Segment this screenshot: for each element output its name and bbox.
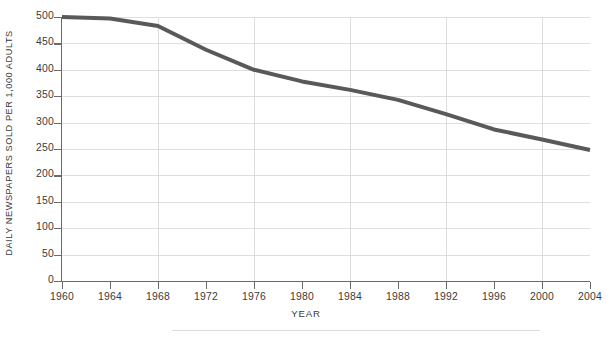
chart-page: DAILY NEWSPAPERS SOLD PER 1,000 ADULTS 0…	[0, 0, 612, 337]
x-axis-tick	[158, 282, 159, 289]
x-axis-tick	[62, 282, 63, 289]
x-axis-tick-label: 1976	[231, 291, 277, 302]
x-axis-tick-label: 1968	[135, 291, 181, 302]
x-axis-tick	[206, 282, 207, 289]
x-axis-title: YEAR	[0, 308, 612, 319]
x-axis-tick-label: 1984	[327, 291, 373, 302]
x-axis-tick-label: 1992	[423, 291, 469, 302]
footer-divider	[172, 330, 540, 331]
x-axis-tick-label: 1972	[183, 291, 229, 302]
x-axis-tick-label: 1964	[87, 291, 133, 302]
y-axis-tick	[54, 123, 62, 124]
x-axis-tick-label: 2000	[519, 291, 565, 302]
x-axis-tick-label: 2004	[567, 291, 612, 302]
y-axis-tick-label: 450	[10, 36, 54, 47]
clipped-title-text	[30, 0, 330, 3]
y-axis-tick	[54, 228, 62, 229]
y-axis-tick	[54, 17, 62, 18]
y-axis-tick-label: 50	[10, 248, 54, 259]
x-axis-tick	[494, 282, 495, 289]
x-axis-tick-label: 1988	[375, 291, 421, 302]
y-axis-tick	[54, 96, 62, 97]
plot-area	[62, 17, 590, 281]
y-axis-tick-label: 0	[10, 274, 54, 285]
x-axis-tick	[590, 282, 591, 289]
y-axis-tick	[54, 202, 62, 203]
x-axis-tick	[446, 282, 447, 289]
y-axis-tick-label: 200	[10, 168, 54, 179]
series-svg	[62, 17, 590, 281]
y-axis-tick	[54, 149, 62, 150]
x-axis-tick-label: 1960	[39, 291, 85, 302]
y-axis-tick-label: 500	[10, 10, 54, 21]
y-axis-tick	[54, 255, 62, 256]
y-axis-tick-label: 100	[10, 221, 54, 232]
x-axis-line	[61, 281, 590, 282]
x-axis-tick	[302, 282, 303, 289]
y-axis-tick	[54, 281, 62, 282]
y-axis-tick	[54, 175, 62, 176]
x-axis-tick	[350, 282, 351, 289]
data-line-newspapers	[62, 17, 590, 150]
y-axis-tick-label: 350	[10, 89, 54, 100]
x-axis-tick	[254, 282, 255, 289]
y-axis-tick-label: 150	[10, 195, 54, 206]
x-axis-tick	[398, 282, 399, 289]
y-axis-tick-label: 250	[10, 142, 54, 153]
y-axis-tick-labels: 050100150200250300350400450500	[4, 0, 54, 300]
x-axis-tick	[542, 282, 543, 289]
x-axis-tick-label: 1996	[471, 291, 517, 302]
x-axis-tick	[110, 282, 111, 289]
y-axis-tick	[54, 43, 62, 44]
y-axis-tick-label: 300	[10, 116, 54, 127]
x-axis-tick-label: 1980	[279, 291, 325, 302]
y-axis-tick-label: 400	[10, 63, 54, 74]
y-axis-tick	[54, 70, 62, 71]
